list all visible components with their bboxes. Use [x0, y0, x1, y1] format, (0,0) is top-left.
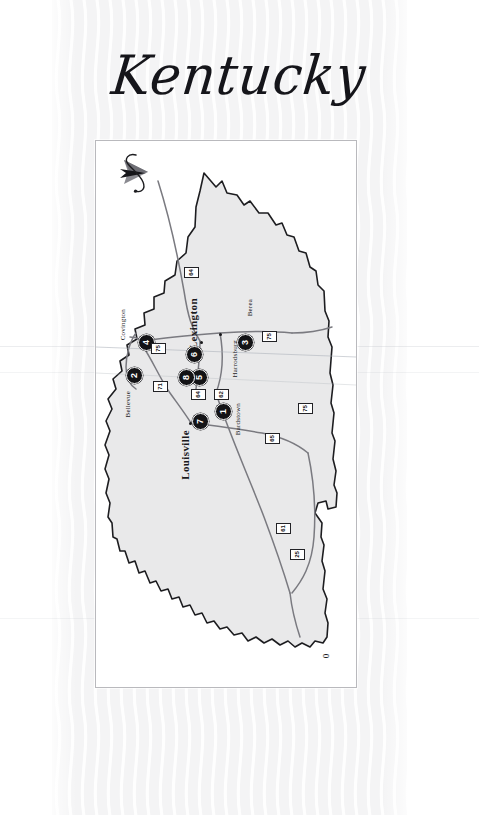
route-shield-64-south: 64 [191, 389, 206, 400]
map-marker-3-label: 3 [238, 340, 253, 345]
map-panel[interactable]: Covington Bellevue Lexington Louisville … [95, 140, 357, 688]
route-shield-25-label: 25 [293, 551, 302, 558]
route-shield-71: 71 [153, 381, 168, 392]
route-shield-61-label: 61 [279, 525, 288, 532]
map-marker-2-label: 2 [127, 373, 142, 378]
map-marker-1[interactable]: 1 [215, 403, 232, 420]
map-marker-1-label: 1 [216, 409, 231, 414]
route-shield-75-covington: 75 [151, 343, 166, 354]
route-shield-62: 62 [214, 389, 229, 400]
route-shield-25: 25 [290, 549, 305, 560]
map-marker-7[interactable]: 7 [192, 413, 209, 430]
compass-rose-icon [108, 149, 154, 197]
route-shield-64-north: 64 [184, 267, 199, 278]
route-shield-71-label: 71 [156, 383, 165, 390]
route-shield-65-label: 65 [268, 435, 277, 442]
map-marker-2[interactable]: 2 [126, 367, 143, 384]
route-shield-75-berea: 75 [262, 331, 277, 342]
route-shield-64-north-label: 64 [187, 269, 196, 276]
route-shield-65: 65 [265, 433, 280, 444]
route-shield-62-label: 62 [217, 391, 226, 398]
route-shield-75-south: 75 [298, 403, 313, 414]
route-shield-61: 61 [276, 523, 291, 534]
page-canvas: Kentucky [0, 0, 479, 815]
map-marker-3[interactable]: 3 [237, 334, 254, 351]
route-shield-75-berea-label: 75 [265, 333, 274, 340]
map-marker-7-label: 7 [193, 419, 208, 424]
route-shield-75-south-label: 75 [301, 405, 310, 412]
map-marker-6[interactable]: 6 [186, 346, 203, 363]
route-shield-75-covington-label: 75 [154, 345, 163, 352]
map-marker-8[interactable]: 8 [178, 369, 195, 386]
city-dot [200, 341, 203, 344]
map-marker-6-label: 6 [187, 352, 202, 357]
route-shield-64-south-label: 64 [194, 391, 203, 398]
map-marker-8-label: 8 [179, 375, 194, 380]
city-dot [219, 333, 222, 336]
scale-bar-zero-label: 0 [321, 654, 331, 659]
